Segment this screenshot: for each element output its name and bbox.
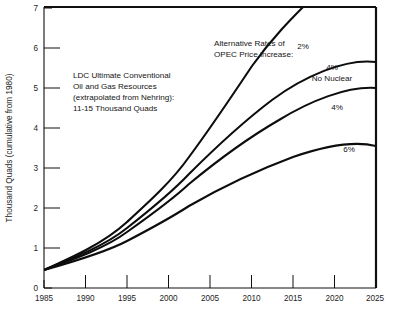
x-axis-ticks	[44, 275, 376, 288]
y-tick-label-0: 0	[33, 284, 38, 293]
x-tick-label-2020: 2020	[325, 294, 344, 303]
annotation-line-1: LDC Ultimate Conventional	[73, 71, 171, 80]
data-series-group	[44, 0, 376, 270]
line-chart: 0 1 2 3 4 5 6 7 1985 1990 1995 2000	[0, 0, 393, 315]
x-tick-label-1995: 1995	[118, 294, 137, 303]
x-tick-label-2005: 2005	[201, 294, 220, 303]
series-label-no-nuclear: No Nuclear	[312, 74, 353, 83]
y-tick-label-3: 3	[33, 164, 38, 173]
x-tick-label-2025: 2025	[366, 294, 385, 303]
series-label-4pct-no-nuclear: 4%	[326, 63, 338, 72]
series-label-4pct: 4%	[331, 103, 343, 112]
y-tick-label-5: 5	[33, 84, 38, 93]
x-tick-label-2010: 2010	[242, 294, 261, 303]
series-label-2pct: 2%	[297, 42, 309, 51]
annotation-line-2: Oil and Gas Resources	[73, 82, 157, 91]
y-axis-title: Thousand Quads (cumulative from 1980)	[5, 73, 14, 222]
series-label-6pct: 6%	[343, 145, 355, 154]
annotation-line-3: (extrapolated from Nehring):	[73, 93, 174, 102]
legend-header-line2: OPEC Price Increase:	[214, 50, 293, 59]
annotation-line-4: 11-15 Thousand Quads	[73, 104, 157, 113]
x-tick-label-1985: 1985	[35, 294, 54, 303]
y-tick-label-6: 6	[33, 44, 38, 53]
chart-figure: 0 1 2 3 4 5 6 7 1985 1990 1995 2000	[0, 0, 393, 315]
x-tick-label-1990: 1990	[76, 294, 95, 303]
y-axis-tick-labels: 0 1 2 3 4 5 6 7	[33, 4, 38, 293]
y-tick-label-7: 7	[33, 4, 38, 13]
x-tick-label-2015: 2015	[284, 294, 303, 303]
x-tick-label-2000: 2000	[159, 294, 178, 303]
y-tick-label-1: 1	[33, 244, 38, 253]
legend-header: Alternative Rates of OPEC Price Increase…	[214, 39, 293, 59]
series-curve-4pct	[44, 88, 376, 270]
x-axis-tick-labels: 1985 1990 1995 2000 2005 2010 2015 2020 …	[35, 294, 385, 303]
y-axis-ticks	[44, 8, 60, 288]
annotation-block: LDC Ultimate Conventional Oil and Gas Re…	[73, 71, 174, 113]
legend-header-line1: Alternative Rates of	[214, 39, 285, 48]
y-tick-label-4: 4	[33, 124, 38, 133]
y-tick-label-2: 2	[33, 204, 38, 213]
